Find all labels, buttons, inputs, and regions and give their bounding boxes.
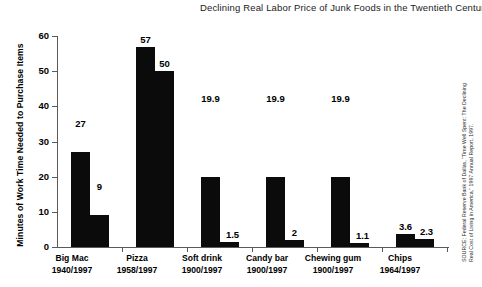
y-tick-label-20: 20 <box>38 171 49 182</box>
category-label-candy-bar: Candy bar 1900/1997 <box>232 252 302 276</box>
category-years-chips: 1964/1997 <box>365 264 435 276</box>
bar-chips-1997 <box>415 239 434 247</box>
bar-label-chewing-gum-1997: 1.1 <box>350 230 375 241</box>
y-tick-label-0: 0 <box>44 241 49 252</box>
y-tick-60: 60 <box>52 36 57 37</box>
category-label-chips: Chips 1964/1997 <box>365 252 435 276</box>
category-name-pizza: Pizza <box>102 252 172 264</box>
bar-label-soft-drink-early: 19.9 <box>198 93 223 104</box>
category-years-big-mac: 1940/1997 <box>37 264 107 276</box>
y-tick-0: 0 <box>52 247 57 248</box>
category-name-chewing-gum: Chewing gum <box>295 252 371 264</box>
category-name-chips: Chips <box>365 252 435 264</box>
category-years-chewing-gum: 1900/1997 <box>295 264 371 276</box>
bar-pizza-early <box>136 47 155 248</box>
bar-candy-bar-1997 <box>285 240 304 247</box>
category-years-pizza: 1958/1997 <box>102 264 172 276</box>
bar-soft-drink-1997 <box>220 242 239 247</box>
chart-figure: Declining Real Labor Price of Junk Foods… <box>0 0 482 287</box>
y-tick-label-60: 60 <box>38 30 49 41</box>
source-note-line1: SOURCE: Federal Reserve Bank of Dallas, … <box>461 12 468 262</box>
category-name-candy-bar: Candy bar <box>232 252 302 264</box>
y-tick-label-40: 40 <box>38 100 49 111</box>
source-note-line2: Real Cost of Living in America," 1997 An… <box>468 12 475 262</box>
category-label-soft-drink: Soft drink 1900/1997 <box>167 252 237 276</box>
category-label-chewing-gum: Chewing gum 1900/1997 <box>295 252 371 276</box>
y-axis-line <box>57 36 58 247</box>
bar-label-pizza-early: 57 <box>136 34 155 45</box>
source-note: SOURCE: Federal Reserve Bank of Dallas, … <box>461 12 475 262</box>
category-years-candy-bar: 1900/1997 <box>232 264 302 276</box>
bar-chewing-gum-1997 <box>350 243 369 247</box>
x-tick-6 <box>447 247 448 252</box>
bar-label-big-mac-1997: 9 <box>90 181 109 192</box>
bar-soft-drink-early <box>201 177 220 247</box>
y-tick-label-30: 30 <box>38 136 49 147</box>
category-years-soft-drink: 1900/1997 <box>167 264 237 276</box>
y-tick-20: 20 <box>52 177 57 178</box>
category-name-big-mac: Big Mac <box>37 252 107 264</box>
y-tick-40: 40 <box>52 106 57 107</box>
y-axis-title: Minutes of Work Time Needed to Purchase … <box>15 27 25 263</box>
y-tick-10: 10 <box>52 212 57 213</box>
bar-candy-bar-early <box>266 177 285 247</box>
bar-label-candy-bar-1997: 2 <box>285 227 304 238</box>
bar-label-chips-1997: 2.3 <box>414 226 439 237</box>
category-name-soft-drink: Soft drink <box>167 252 237 264</box>
bar-label-chewing-gum-early: 19.9 <box>328 93 353 104</box>
plot-area: 0 10 20 30 40 50 60 27 9 <box>57 36 449 247</box>
bar-big-mac-1997 <box>90 215 109 247</box>
category-label-pizza: Pizza 1958/1997 <box>102 252 172 276</box>
bar-label-candy-bar-early: 19.9 <box>263 93 288 104</box>
y-tick-label-10: 10 <box>38 206 49 217</box>
y-tick-label-50: 50 <box>38 65 49 76</box>
bar-label-big-mac-early: 27 <box>71 118 90 129</box>
bar-pizza-1997 <box>155 71 174 247</box>
x-axis-line <box>57 247 449 248</box>
bar-chewing-gum-early <box>331 177 350 247</box>
y-tick-30: 30 <box>52 142 57 143</box>
bar-label-soft-drink-1997: 1.5 <box>220 229 245 240</box>
category-label-big-mac: Big Mac 1940/1997 <box>37 252 107 276</box>
bar-chips-early <box>396 234 415 247</box>
bar-label-pizza-1997: 50 <box>155 58 174 69</box>
bar-big-mac-early <box>71 152 90 247</box>
y-tick-50: 50 <box>52 71 57 72</box>
chart-title: Declining Real Labor Price of Junk Foods… <box>200 2 478 13</box>
